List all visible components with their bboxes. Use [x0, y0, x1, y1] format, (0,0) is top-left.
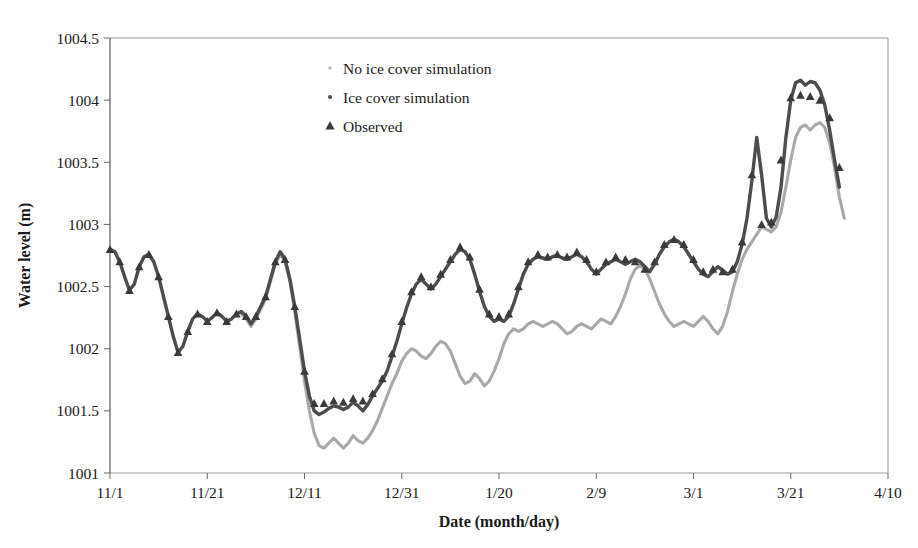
observed-marker [534, 250, 543, 258]
y-tick-label: 1001.5 [56, 402, 99, 419]
legend-dot-icon [329, 67, 332, 70]
x-tick-label: 12/31 [384, 484, 419, 501]
chart-svg: 10011001.510021002.510031003.510041004.5… [0, 0, 918, 548]
observed-marker [553, 250, 562, 258]
y-tick-label: 1004.5 [56, 30, 99, 47]
observed-marker [748, 170, 757, 178]
legend-item-label: Observed [343, 118, 403, 135]
y-tick-label: 1003.5 [56, 154, 99, 171]
observed-marker [349, 394, 358, 402]
water-level-chart-figure: 10011001.510021002.510031003.510041004.5… [0, 0, 918, 548]
observed-marker [213, 308, 222, 316]
y-tick-label: 1004 [68, 92, 99, 109]
observed-marker [495, 312, 504, 320]
x-tick-label: 3/21 [777, 484, 805, 501]
observed-marker [290, 302, 299, 310]
x-tick-label: 4/10 [874, 484, 902, 501]
x-tick-label: 3/1 [684, 484, 704, 501]
series-markers-observed [106, 91, 844, 407]
observed-marker [339, 398, 348, 406]
observed-marker [738, 238, 747, 246]
x-tick-label: 12/11 [287, 484, 322, 501]
observed-marker [164, 312, 173, 320]
y-tick-label: 1002.5 [56, 278, 99, 295]
y-tick-label: 1003 [68, 216, 99, 233]
observed-marker [320, 399, 329, 407]
legend-item-label: No ice cover simulation [343, 60, 492, 77]
observed-marker [611, 252, 620, 260]
observed-marker [417, 272, 426, 280]
x-axis-title: Date (month/day) [439, 513, 559, 531]
observed-marker [154, 272, 163, 280]
plot-frame-top-right [110, 38, 888, 473]
x-tick-label: 2/9 [586, 484, 606, 501]
legend-item-label: Ice cover simulation [343, 89, 470, 106]
legend-triangle-icon [326, 121, 335, 130]
observed-marker [806, 92, 815, 100]
x-tick-label: 11/1 [97, 484, 124, 501]
observed-marker [796, 91, 805, 99]
observed-marker [573, 247, 582, 255]
legend-dot-icon [328, 95, 332, 99]
y-axis-title: Water level (m) [16, 203, 34, 308]
observed-marker [456, 243, 465, 251]
figure-caption [120, 533, 820, 547]
y-tick-label: 1002 [68, 340, 99, 357]
y-tick-label: 1001 [68, 465, 99, 482]
series-line-ice-cover [110, 80, 839, 414]
observed-marker [757, 220, 766, 228]
observed-marker [359, 397, 368, 405]
observed-marker [329, 397, 338, 405]
x-tick-label: 1/20 [485, 484, 513, 501]
x-tick-label: 11/21 [190, 484, 225, 501]
observed-marker [621, 255, 630, 263]
